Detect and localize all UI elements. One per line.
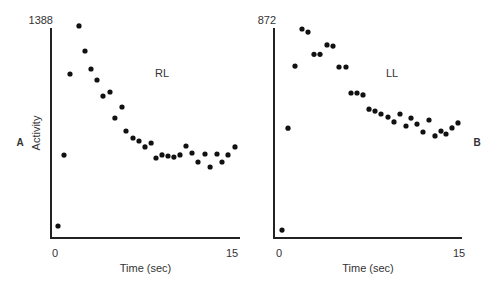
data-point [372, 109, 377, 114]
data-point [403, 123, 408, 128]
data-point [305, 29, 310, 34]
data-point [171, 155, 176, 160]
data-point [343, 64, 348, 69]
data-point [67, 71, 72, 76]
data-point [82, 48, 87, 53]
x-tick-label-0: 0 [276, 247, 282, 259]
data-point [61, 153, 66, 158]
data-point [165, 153, 170, 158]
data-point [177, 152, 182, 157]
data-point [455, 120, 460, 125]
data-point [414, 122, 419, 127]
data-point [123, 128, 128, 133]
figure: 1388015Time (sec)ActivityARL872015Time (… [0, 0, 490, 284]
data-point [130, 135, 135, 140]
data-point [317, 52, 322, 57]
data-point [119, 104, 124, 109]
data-point [378, 111, 383, 116]
data-point [385, 115, 390, 120]
data-point [292, 64, 297, 69]
data-point [324, 42, 329, 47]
data-point [88, 66, 93, 71]
data-point [225, 152, 230, 157]
x-tick-label-15: 15 [453, 247, 465, 259]
data-point [219, 159, 224, 164]
x-axis-label: Time (sec) [120, 262, 172, 274]
data-point [189, 150, 194, 155]
data-point [443, 131, 448, 136]
data-point [208, 164, 213, 169]
data-point [94, 77, 99, 82]
data-point [183, 143, 188, 148]
data-point [391, 119, 396, 124]
data-point [299, 26, 304, 31]
data-point [336, 64, 341, 69]
data-point [285, 126, 290, 131]
data-point [348, 90, 353, 95]
data-point [232, 144, 237, 149]
x-tick-label-0: 0 [52, 247, 58, 259]
data-point [366, 107, 371, 112]
data-point [55, 223, 60, 228]
data-point [142, 144, 147, 149]
data-point [136, 138, 141, 143]
x-axis-label: Time (sec) [342, 262, 394, 274]
series-label: LL [386, 67, 398, 79]
data-point [153, 155, 158, 160]
series-label: RL [155, 67, 169, 79]
y-max-tick-label: 872 [258, 14, 276, 26]
data-point [279, 228, 284, 233]
data-point [432, 133, 437, 138]
data-point [330, 44, 335, 49]
data-point [420, 129, 425, 134]
y-axis-label: Activity [30, 115, 42, 150]
data-point [397, 111, 402, 116]
data-point [202, 151, 207, 156]
data-point [159, 152, 164, 157]
data-point [100, 94, 105, 99]
data-point [354, 90, 359, 95]
data-point [408, 116, 413, 121]
y-max-tick-label: 1388 [29, 14, 53, 26]
data-point [107, 89, 112, 94]
data-point [360, 92, 365, 97]
data-point [438, 129, 443, 134]
data-point [449, 125, 454, 130]
data-point [76, 23, 81, 28]
panel-label: A [16, 137, 23, 148]
data-point [214, 151, 219, 156]
data-point [311, 52, 316, 57]
data-point [426, 117, 431, 122]
x-tick-label-15: 15 [226, 247, 238, 259]
panel-label: B [473, 137, 480, 148]
data-point [149, 140, 154, 145]
data-point [195, 159, 200, 164]
data-point [112, 115, 117, 120]
